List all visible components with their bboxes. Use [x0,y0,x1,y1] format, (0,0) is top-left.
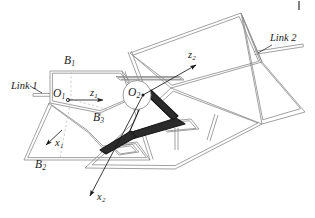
link2-upper-panel-inner [133,17,259,86]
figure-canvas: Link 1 Link 2 B1 B2 B3 O1 O2 z1 z2 x1 x2 [0,0,315,218]
label-axis-z1: z1 [90,88,98,99]
label-B2: B2 [35,159,46,171]
link2-drop-rail-c [207,114,215,140]
label-axis-x1: x1 [55,138,63,149]
label-B1: B1 [64,55,75,67]
label-O1: O1 [53,88,65,100]
label-B3: B3 [93,112,104,124]
label-O2: O2 [128,87,140,99]
link2-lower-panel-outer [85,88,262,169]
link2-drop-rail-d [210,115,218,141]
mechanism-line-drawing [0,0,315,218]
label-axis-x2: x2 [97,192,105,203]
link2-right-panel-outer [241,13,305,124]
label-link-1: Link 1 [11,81,38,92]
label-axis-z2: z2 [188,50,196,61]
label-link-2: Link 2 [270,33,297,44]
hidden-B2-drop [60,99,71,158]
